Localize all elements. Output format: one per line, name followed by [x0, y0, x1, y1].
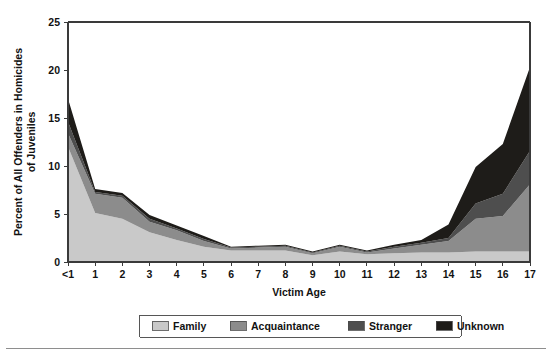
x-tick-label: 13: [415, 268, 427, 280]
legend-swatch-family: [152, 321, 168, 330]
y-axis-title: Percent of All Offenders in Homicides of…: [12, 48, 37, 236]
y-tick-label: 5: [54, 208, 60, 220]
chart-figure: 0510152025 <11234567891011121314151617 P…: [0, 0, 552, 360]
x-tick-label: 8: [282, 268, 288, 280]
x-tick-label: 3: [147, 268, 153, 280]
legend-swatch-acquaintance: [230, 321, 246, 330]
legend-label-unknown: Unknown: [457, 320, 504, 332]
x-tick-label: 11: [361, 268, 372, 280]
x-tick-label: 7: [255, 268, 261, 280]
legend-item-family[interactable]: Family: [152, 320, 206, 332]
x-tick-label: 16: [497, 268, 509, 280]
chart-legend: FamilyAcquaintanceStrangerUnknown: [139, 315, 504, 337]
x-tick-label: 14: [443, 268, 455, 280]
y-tick-label: 10: [48, 160, 60, 172]
x-tick-label: 6: [228, 268, 234, 280]
legend-item-acquaintance[interactable]: Acquaintance: [230, 320, 320, 332]
x-tick-label: 2: [119, 268, 125, 280]
x-tick-label: 1: [92, 268, 98, 280]
y-tick-label: 15: [48, 112, 60, 124]
x-axis-ticks: <11234567891011121314151617: [62, 262, 536, 280]
y-tick-label: 0: [54, 256, 60, 268]
legend-label-acquaintance: Acquaintance: [251, 320, 320, 332]
legend-label-family: Family: [173, 320, 206, 332]
x-tick-label: 12: [388, 268, 400, 280]
legend-swatch-unknown: [436, 321, 452, 330]
y-axis-title-line2: of Juveniles: [25, 112, 37, 173]
x-tick-label: 10: [334, 268, 346, 280]
y-axis-title-line1: Percent of All Offenders in Homicides: [12, 48, 24, 236]
x-tick-label: 9: [310, 268, 316, 280]
x-tick-label: 15: [470, 268, 482, 280]
y-tick-label: 25: [48, 16, 60, 28]
x-tick-label: 5: [201, 268, 207, 280]
legend-item-unknown[interactable]: Unknown: [436, 320, 504, 332]
legend-item-stranger[interactable]: Stranger: [348, 320, 412, 332]
legend-swatch-stranger: [348, 321, 364, 330]
x-tick-label: 17: [524, 268, 536, 280]
x-axis-title: Victim Age: [272, 286, 326, 298]
y-tick-label: 20: [48, 64, 60, 76]
y-axis-ticks: 0510152025: [48, 16, 68, 268]
x-tick-label: <1: [62, 268, 74, 280]
legend-label-stranger: Stranger: [369, 320, 412, 332]
x-tick-label: 4: [174, 268, 180, 280]
